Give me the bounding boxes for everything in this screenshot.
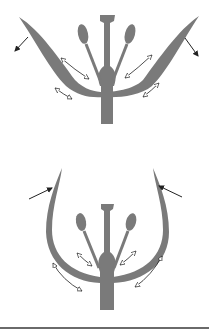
stem (100, 268, 114, 310)
stamen-filament-right (113, 44, 127, 80)
pistil (98, 204, 115, 272)
open-flower (15, 15, 199, 124)
stamen-anther-right (124, 212, 138, 232)
stamen-anther-right (123, 23, 138, 45)
stamen-anther-left (75, 212, 88, 231)
flower-diagram (0, 0, 209, 336)
petal-right (113, 168, 169, 283)
arrow-inner-left (77, 253, 92, 266)
closed-flower (29, 168, 182, 310)
arrow-inner-right (120, 251, 136, 265)
arrow-outer-left (55, 88, 72, 99)
stamen-anther-left (76, 23, 90, 45)
stamen-filament-right (114, 231, 128, 268)
pistil (98, 15, 115, 86)
arrow-out-left (15, 37, 28, 51)
arrow-in-left (29, 188, 52, 199)
stamen-filament-left (84, 231, 99, 268)
petal-right (104, 16, 199, 97)
stamen-filament-left (86, 44, 100, 80)
divider-rule (0, 327, 209, 329)
stem (101, 82, 113, 124)
arrow-out-right (185, 38, 198, 56)
